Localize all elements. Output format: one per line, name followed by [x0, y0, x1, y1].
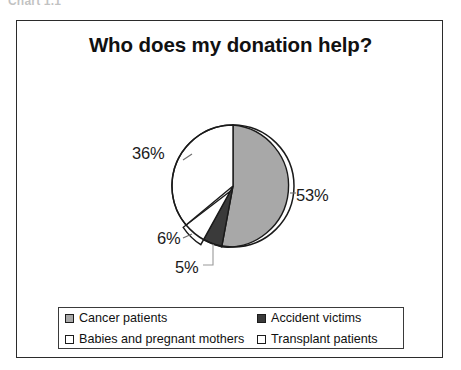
legend-swatch-icon-transplant-patients [257, 335, 266, 344]
legend-label-accident-victims: Accident victims [271, 312, 361, 325]
chart-legend: Cancer patients Accident victims Babies … [58, 307, 404, 349]
legend-label-transplant-patients: Transplant patients [271, 333, 378, 346]
legend-swatch-icon-accident-victims [257, 314, 266, 323]
legend-label-babies-and-pregnant-mothers: Babies and pregnant mothers [79, 333, 244, 346]
legend-swatch-icon-cancer-patients [65, 314, 74, 323]
pie-value-label-cancer-patients: 53% [296, 186, 328, 205]
leader-line-accident [203, 244, 213, 265]
scan-caption: Chart 1.1 [8, 0, 128, 8]
legend-item-cancer-patients[interactable]: Cancer patients [65, 312, 257, 325]
pie-value-label-transplant-patients: 6% [157, 229, 180, 248]
legend-item-accident-victims[interactable]: Accident victims [257, 312, 411, 325]
chart-frame: Who does my donation help? 53% 36 [16, 20, 443, 358]
pie-value-label-babies-and-pregnant-mothers: 36% [132, 144, 164, 163]
legend-swatch-icon-babies-and-pregnant-mothers [65, 335, 74, 344]
pie-value-label-accident-victims: 5% [175, 258, 198, 277]
legend-item-transplant-patients[interactable]: Transplant patients [257, 333, 411, 346]
legend-label-cancer-patients: Cancer patients [79, 312, 167, 325]
legend-item-babies-and-pregnant-mothers[interactable]: Babies and pregnant mothers [65, 333, 257, 346]
